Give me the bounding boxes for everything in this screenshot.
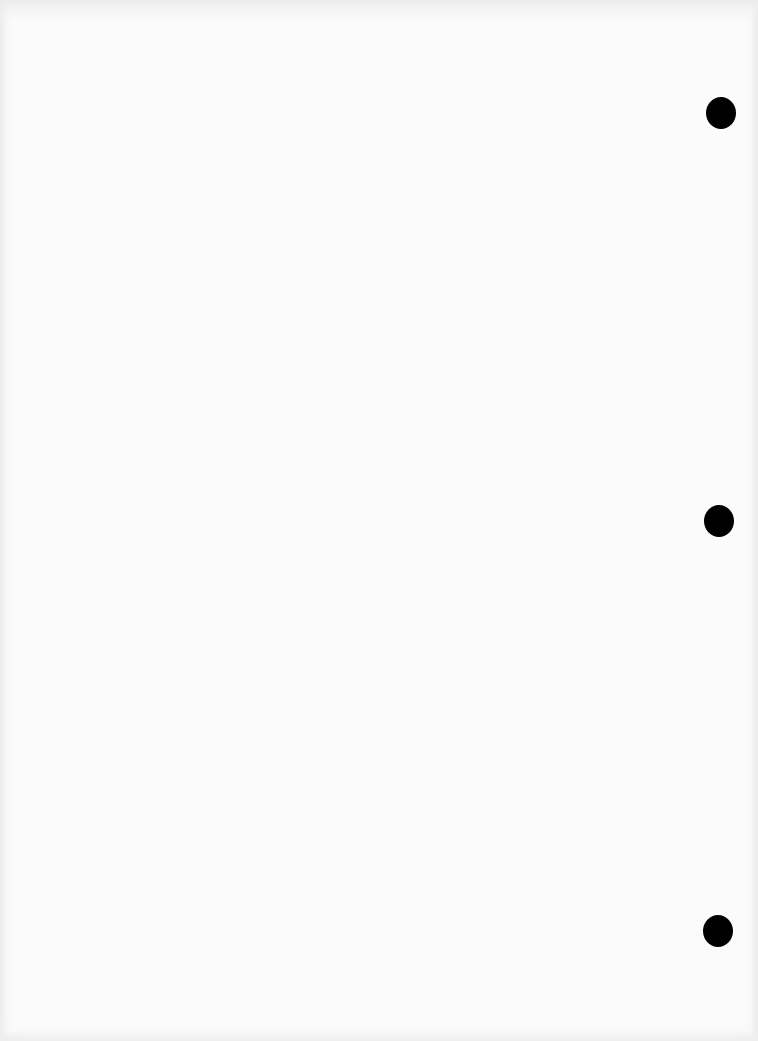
scan-edge-shadow-left xyxy=(0,0,8,1041)
bleed-through-text xyxy=(200,158,500,182)
scan-edge-shadow-top xyxy=(0,0,758,22)
punch-hole-middle xyxy=(704,505,734,537)
scan-edge-shadow-bottom xyxy=(0,1031,758,1041)
scanned-page xyxy=(0,0,758,1041)
punch-hole-bottom xyxy=(703,915,733,947)
punch-hole-top xyxy=(706,97,736,129)
scan-edge-shadow-right xyxy=(750,0,758,1041)
